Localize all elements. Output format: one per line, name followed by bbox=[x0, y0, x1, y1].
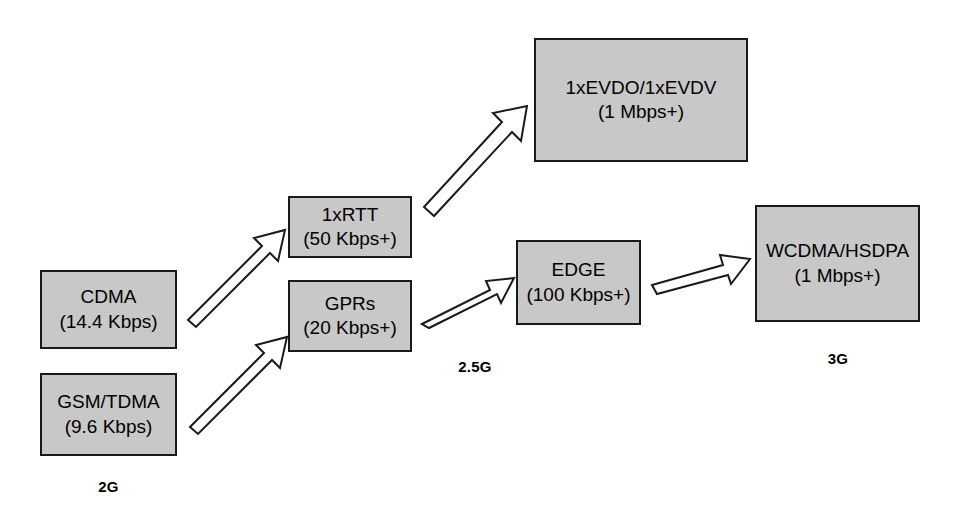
node-1xrtt-rate: (50 Kbps+) bbox=[303, 227, 396, 251]
node-evdo-evdv[interactable]: 1xEVDO/1xEVDV (1 Mbps+) bbox=[534, 38, 748, 162]
node-cdma-rate: (14.4 Kbps) bbox=[59, 310, 157, 334]
arrow-gsm-to-gprs bbox=[190, 337, 287, 434]
node-gsm-tdma[interactable]: GSM/TDMA (9.6 Kbps) bbox=[40, 373, 177, 456]
node-edge-rate: (100 Kbps+) bbox=[526, 283, 630, 307]
node-gprs[interactable]: GPRs (20 Kbps+) bbox=[288, 280, 412, 352]
node-edge-title: EDGE bbox=[552, 258, 606, 282]
node-1xrtt[interactable]: 1xRTT (50 Kbps+) bbox=[288, 196, 412, 258]
node-wcdma-hsdpa-title: WCDMA/HSDPA bbox=[766, 239, 909, 263]
node-gsm-tdma-rate: (9.6 Kbps) bbox=[65, 415, 153, 439]
generation-label-2.5g: 2.5G bbox=[425, 358, 525, 375]
arrow-1xrtt-to-evdo bbox=[424, 106, 527, 216]
node-evdo-evdv-rate: (1 Mbps+) bbox=[598, 100, 684, 124]
node-cdma-title: CDMA bbox=[81, 285, 137, 309]
node-gprs-rate: (20 Kbps+) bbox=[303, 316, 396, 340]
arrow-edge-to-wcdma bbox=[652, 255, 750, 294]
node-gsm-tdma-title: GSM/TDMA bbox=[57, 390, 159, 414]
node-gprs-title: GPRs bbox=[325, 292, 376, 316]
generation-label-3g: 3G bbox=[788, 350, 888, 367]
node-edge[interactable]: EDGE (100 Kbps+) bbox=[516, 240, 641, 325]
network-evolution-diagram: CDMA (14.4 Kbps) GSM/TDMA (9.6 Kbps) 1xR… bbox=[0, 0, 976, 521]
node-wcdma-hsdpa[interactable]: WCDMA/HSDPA (1 Mbps+) bbox=[755, 205, 920, 322]
node-cdma[interactable]: CDMA (14.4 Kbps) bbox=[40, 270, 177, 349]
generation-label-2g: 2G bbox=[40, 478, 177, 495]
node-evdo-evdv-title: 1xEVDO/1xEVDV bbox=[566, 76, 717, 100]
arrow-cdma-to-1xrtt bbox=[188, 230, 285, 327]
arrow-gprs-to-edge bbox=[422, 278, 514, 328]
node-wcdma-hsdpa-rate: (1 Mbps+) bbox=[794, 264, 880, 288]
node-1xrtt-title: 1xRTT bbox=[322, 203, 379, 227]
